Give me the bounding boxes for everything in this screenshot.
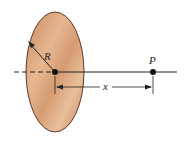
disk-diagram: R P x	[0, 0, 188, 141]
distance-label: x	[102, 80, 108, 92]
point-p-label: P	[148, 54, 156, 66]
point-p-dot	[150, 69, 156, 75]
dimension-arrowhead-right-icon	[145, 85, 152, 90]
radius-label: R	[43, 50, 51, 62]
disk-center-dot	[52, 69, 58, 75]
